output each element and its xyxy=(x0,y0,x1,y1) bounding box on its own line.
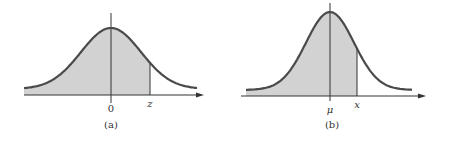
panel-b-caption: (b) xyxy=(325,119,339,130)
panel-a-center-label: 0 xyxy=(108,103,114,114)
panel-b-shaded-area xyxy=(246,12,357,96)
panel-b-mu-label: μ xyxy=(327,104,334,115)
panel-a-caption: (a) xyxy=(104,119,118,130)
panel-a-z-label: z xyxy=(147,98,152,109)
figure-canvas xyxy=(0,0,453,144)
panel-b-axis-arrow-icon xyxy=(418,94,426,99)
panel-b xyxy=(241,3,426,101)
panel-a-axis-arrow-icon xyxy=(196,93,204,98)
panel-b-x-label: x xyxy=(354,99,360,110)
panel-a xyxy=(24,13,204,103)
